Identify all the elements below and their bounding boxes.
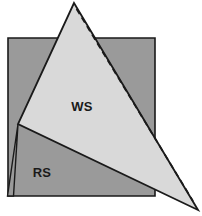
label-reference-surface: RS [33,165,52,180]
figure-canvas: WS RS [0,0,202,216]
geometry-diagram: WS RS [0,0,202,216]
label-working-surface: WS [71,99,93,114]
